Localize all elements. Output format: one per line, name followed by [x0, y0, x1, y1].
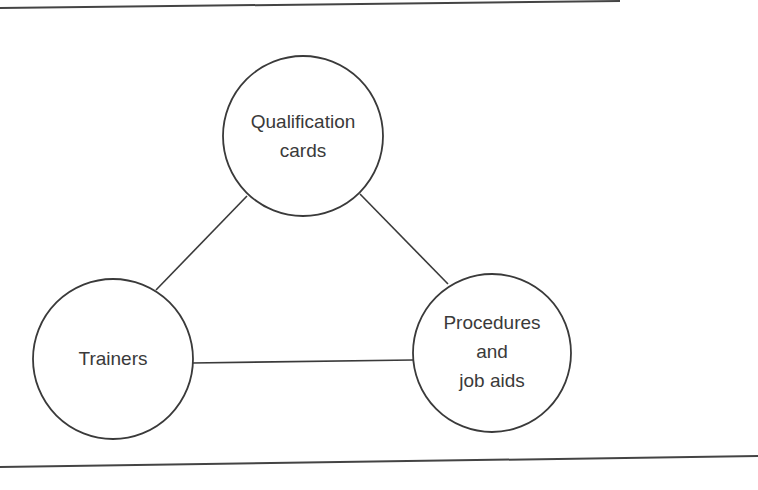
node-qualification-cards: Qualification cards: [223, 56, 383, 216]
node-label-line: cards: [280, 140, 326, 161]
node-procedures-job-aids: Procedures and job aids: [413, 274, 571, 432]
node-label-line: job aids: [458, 370, 525, 391]
node-label-line: Qualification: [251, 111, 356, 132]
diagram-canvas: Qualification cards Trainers Procedures …: [0, 0, 758, 490]
top-rule: [0, 1, 620, 8]
edge-trainers-procedures: [192, 360, 413, 363]
edge-trainers-qualification: [156, 196, 247, 290]
node-label-line: and: [476, 341, 508, 362]
node-trainers: Trainers: [33, 279, 193, 439]
edge-qualification-procedures: [360, 194, 448, 284]
node-label-line: Procedures: [443, 312, 540, 333]
bottom-rule: [0, 456, 758, 467]
node-label-line: Trainers: [79, 348, 148, 369]
